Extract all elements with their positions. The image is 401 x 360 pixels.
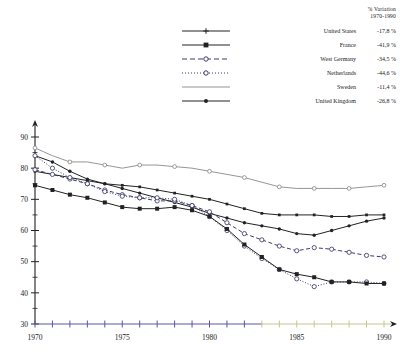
- legend-line-sample-icon: [180, 67, 232, 79]
- legend-label: West Germany: [232, 56, 362, 62]
- legend-line-sample-icon: [180, 25, 232, 37]
- legend-item-sweden: Sweden -11,4 %: [180, 80, 398, 94]
- legend-item-netherlands: Netherlands -44,6 %: [180, 66, 398, 80]
- legend-value: -44,6 %: [362, 70, 398, 76]
- legend-label: Sweden: [232, 84, 362, 90]
- series-united-kingdom: [33, 154, 385, 237]
- legend-label: Netherlands: [232, 70, 362, 76]
- legend-value: -26,8 %: [362, 98, 398, 104]
- y-axis-tick-label: 90: [21, 133, 29, 142]
- y-axis-tick-label: 80: [21, 164, 29, 173]
- chart-legend: % Variation 1970-1990 United States -17,…: [180, 6, 398, 108]
- legend-value: -17,8 %: [362, 28, 398, 34]
- legend-item-united-kingdom: United Kingdom -26,8 %: [180, 94, 398, 108]
- legend-label: United Kingdom: [232, 98, 362, 104]
- legend-header: % Variation 1970-1990: [180, 6, 398, 20]
- legend-item-united-states: United States -17,8 %: [180, 24, 398, 38]
- legend-value: -34,5 %: [362, 56, 398, 62]
- line-chart: 9080706050403019701975198019851990: [0, 118, 401, 360]
- series-west-germany: [33, 168, 386, 259]
- legend-label: France: [232, 42, 362, 48]
- y-axis-tick-label: 40: [21, 289, 29, 298]
- series-netherlands: [33, 154, 386, 289]
- x-axis-tick-label: 1975: [115, 333, 130, 342]
- legend-item-west-germany: West Germany -34,5 %: [180, 52, 398, 66]
- legend-line-sample-icon: [180, 81, 232, 93]
- x-axis-tick-label: 1985: [289, 333, 304, 342]
- x-axis-tick-label: 1990: [377, 333, 392, 342]
- legend-label: United States: [232, 28, 362, 34]
- legend-item-france: France -41,9 %: [180, 38, 398, 52]
- x-axis-tick-label: 1980: [202, 333, 217, 342]
- legend-line-sample-icon: [180, 95, 232, 107]
- legend-value: -41,9 %: [362, 42, 398, 48]
- legend-header-line2: 1970-1990: [180, 13, 396, 20]
- chart-plot-area: 9080706050403019701975198019851990: [0, 118, 401, 360]
- y-axis-tick-label: 50: [21, 257, 29, 266]
- legend-header-line1: % Variation: [180, 6, 396, 13]
- legend-line-sample-icon: [180, 53, 232, 65]
- y-axis-tick-label: 30: [21, 320, 29, 329]
- x-axis-tick-label: 1970: [28, 333, 43, 342]
- y-axis-tick-label: 60: [21, 226, 29, 235]
- legend-value: -11,4 %: [362, 84, 398, 90]
- y-axis-tick-label: 70: [21, 195, 29, 204]
- legend-items: United States -17,8 % France -41,9 % Wes…: [180, 24, 398, 108]
- legend-line-sample-icon: [180, 39, 232, 51]
